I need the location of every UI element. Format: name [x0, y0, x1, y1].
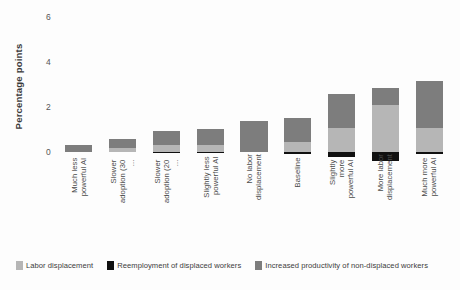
x-axis-label: Much less powerful AI [57, 168, 101, 252]
bar-group[interactable] [65, 8, 92, 164]
bar-group[interactable] [197, 8, 224, 164]
bar-segment-reemployment [416, 152, 443, 155]
legend-item[interactable]: Labor displacement [16, 261, 93, 270]
x-axis-label-text: No labor displacement [245, 154, 263, 200]
bar-segment-labor-displacement [284, 142, 311, 152]
legend-swatch-reemployment [107, 261, 114, 270]
bar-segment-increased-productivity [284, 118, 311, 142]
y-tick-label: 0 [46, 147, 51, 157]
bar-segment-labor-displacement [153, 145, 180, 152]
legend-swatch-labor-displacement [16, 261, 23, 270]
legend-swatch-productivity [255, 261, 262, 270]
bar-series-container [57, 8, 451, 164]
x-axis-label: Slightly more powerful AI [320, 168, 364, 252]
x-axis-label-text: Slower adoption (20 ... [153, 160, 180, 204]
y-tick-label: 4 [46, 57, 51, 67]
bar-group[interactable] [372, 8, 399, 164]
x-axis-label-text: More labor displacement [376, 154, 394, 200]
bar-group[interactable] [416, 8, 443, 164]
bar-segment-increased-productivity [416, 81, 443, 128]
x-axis-label-text: Much more powerful AI [420, 158, 438, 197]
legend-label: Reemployment of displaced workers [117, 261, 241, 270]
chart-figure: Percentage points 0246 Much less powerfu… [0, 0, 460, 290]
bar-group[interactable] [109, 8, 136, 164]
bar-segment-increased-productivity [65, 145, 92, 151]
x-axis-label-text: Much less powerful AI [70, 158, 88, 197]
legend-label: Increased productivity of non-displaced … [265, 261, 428, 270]
legend-item[interactable]: Increased productivity of non-displaced … [255, 261, 428, 270]
chart-legend: Labor displacementReemployment of displa… [16, 258, 448, 272]
x-axis-label: Baseline [276, 168, 320, 252]
bar-group[interactable] [284, 8, 311, 164]
legend-item[interactable]: Reemployment of displaced workers [107, 261, 241, 270]
y-axis-title: Percentage points [12, 8, 26, 164]
x-axis-label-text: Slightly less powerful AI [201, 156, 219, 197]
bar-segment-reemployment [153, 152, 180, 153]
x-axis-label: Much more powerful AI [407, 168, 451, 252]
bar-group[interactable] [153, 8, 180, 164]
bar-segment-increased-productivity [109, 139, 136, 147]
legend-label: Labor displacement [26, 261, 93, 270]
bar-group[interactable] [240, 8, 267, 164]
bar-segment-reemployment [197, 152, 224, 153]
bar-segment-labor-displacement [109, 148, 136, 152]
bar-segment-labor-displacement [328, 128, 355, 152]
plot-area: 0246 [57, 8, 451, 164]
bar-segment-increased-productivity [197, 129, 224, 145]
x-axis-label: Slower adoption (30 ... [101, 168, 145, 252]
bar-segment-increased-productivity [328, 94, 355, 128]
x-axis-label: Slightly less powerful AI [188, 168, 232, 252]
x-axis-label: More labor displacement [363, 168, 407, 252]
bar-segment-increased-productivity [240, 121, 267, 152]
x-axis-label: Slower adoption (20 ... [145, 168, 189, 252]
bar-segment-reemployment [328, 152, 355, 157]
bar-segment-reemployment [284, 152, 311, 155]
bar-segment-increased-productivity [372, 88, 399, 105]
bar-segment-labor-displacement [416, 128, 443, 152]
bar-segment-increased-productivity [153, 131, 180, 144]
y-tick-label: 6 [46, 12, 51, 22]
y-axis-title-text: Percentage points [14, 43, 25, 129]
x-axis-label: No labor displacement [232, 168, 276, 252]
x-axis-label-text: Baseline [293, 158, 302, 188]
bar-group[interactable] [328, 8, 355, 164]
x-axis-label-text: Slower adoption (30 ... [109, 160, 136, 204]
y-tick-label: 2 [46, 102, 51, 112]
x-axis-labels: Much less powerful AISlower adoption (30… [57, 168, 451, 252]
bar-segment-labor-displacement [372, 105, 399, 152]
bar-segment-labor-displacement [197, 145, 224, 152]
x-axis-label-text: Slightly more powerful AI [328, 160, 355, 204]
